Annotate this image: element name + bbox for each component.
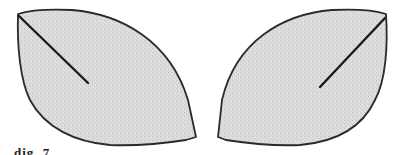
right-leaf	[218, 10, 387, 146]
caption-fragment: dig. 7	[14, 146, 50, 155]
left-leaf	[18, 10, 196, 146]
leaf-diagram	[0, 0, 393, 155]
right-leaf-outline	[218, 10, 387, 146]
left-leaf-outline	[18, 10, 196, 146]
